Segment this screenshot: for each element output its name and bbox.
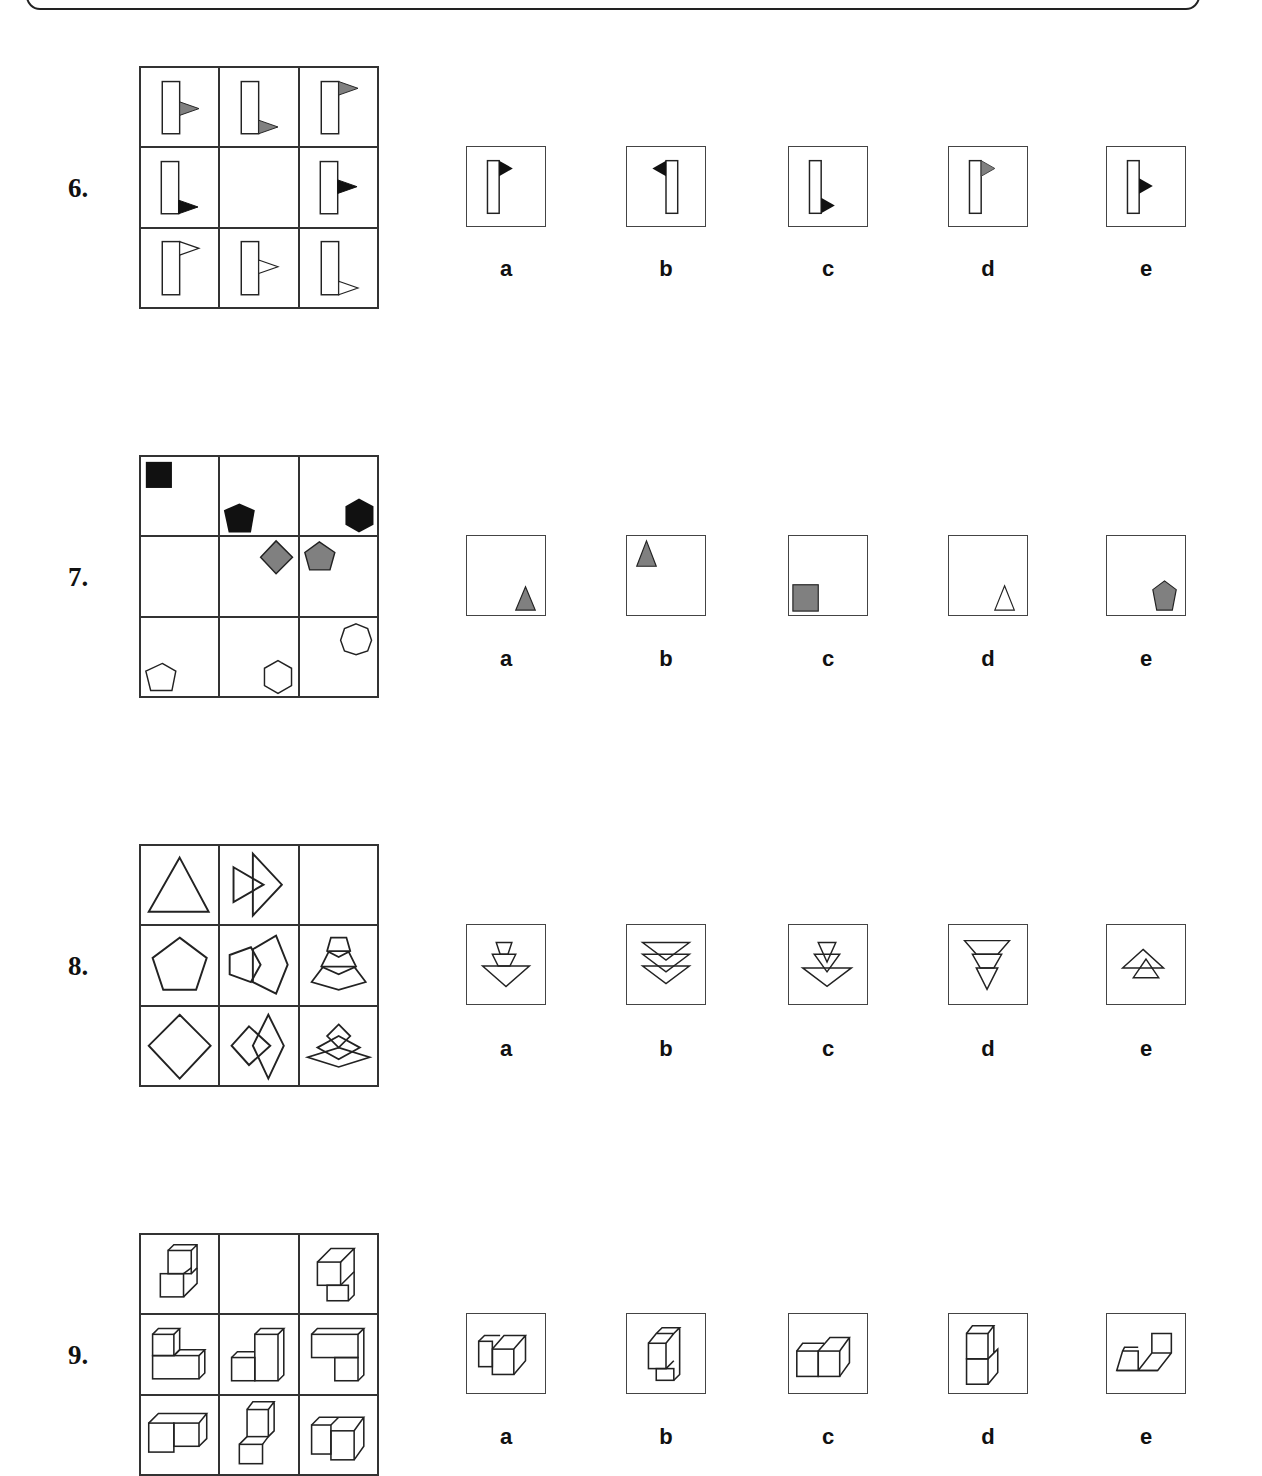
grid-cell-missing bbox=[219, 147, 298, 227]
grid-cell bbox=[140, 845, 219, 925]
grid-cell-missing bbox=[299, 845, 378, 925]
grid-cell bbox=[219, 617, 298, 697]
grid-cell bbox=[219, 1395, 298, 1475]
option-label: b bbox=[626, 1424, 706, 1450]
grid-cell bbox=[299, 228, 378, 308]
option-label: c bbox=[788, 1036, 868, 1062]
option-b[interactable] bbox=[626, 146, 706, 227]
grid-cell bbox=[299, 1234, 378, 1314]
grid-cell bbox=[299, 67, 378, 147]
option-d[interactable] bbox=[948, 146, 1028, 227]
grid-cell bbox=[299, 147, 378, 227]
grid-cell bbox=[299, 925, 378, 1005]
option-label: c bbox=[788, 1424, 868, 1450]
option-c[interactable] bbox=[788, 146, 868, 227]
option-label: e bbox=[1106, 646, 1186, 672]
grid-cell bbox=[140, 925, 219, 1005]
option-b[interactable] bbox=[626, 924, 706, 1005]
option-e[interactable] bbox=[1106, 535, 1186, 616]
option-a[interactable] bbox=[466, 924, 546, 1005]
option-label: a bbox=[466, 646, 546, 672]
header-frame bbox=[26, 0, 1200, 10]
grid-cell bbox=[299, 1395, 378, 1475]
option-c[interactable] bbox=[788, 924, 868, 1005]
option-e[interactable] bbox=[1106, 1313, 1186, 1394]
option-c[interactable] bbox=[788, 535, 868, 616]
grid-cell bbox=[140, 1234, 219, 1314]
puzzle-grid bbox=[139, 455, 379, 698]
option-d[interactable] bbox=[948, 1313, 1028, 1394]
option-a[interactable] bbox=[466, 1313, 546, 1394]
option-label: a bbox=[466, 1424, 546, 1450]
puzzle-grid bbox=[139, 66, 379, 309]
grid-cell bbox=[140, 1395, 219, 1475]
grid-cell bbox=[219, 925, 298, 1005]
puzzle-grid bbox=[139, 844, 379, 1087]
option-e[interactable] bbox=[1106, 146, 1186, 227]
option-label: b bbox=[626, 646, 706, 672]
grid-cell bbox=[140, 617, 219, 697]
grid-cell bbox=[299, 1314, 378, 1394]
question-number: 6. bbox=[68, 173, 88, 204]
option-label: c bbox=[788, 646, 868, 672]
question-number: 9. bbox=[68, 1340, 88, 1371]
grid-cell bbox=[140, 1314, 219, 1394]
option-label: d bbox=[948, 1036, 1028, 1062]
option-label: b bbox=[626, 256, 706, 282]
option-label: d bbox=[948, 256, 1028, 282]
option-label: d bbox=[948, 1424, 1028, 1450]
grid-cell bbox=[140, 228, 219, 308]
grid-cell-missing bbox=[219, 1234, 298, 1314]
option-label: a bbox=[466, 256, 546, 282]
option-label: e bbox=[1106, 256, 1186, 282]
grid-cell bbox=[140, 147, 219, 227]
option-label: e bbox=[1106, 1036, 1186, 1062]
option-label: a bbox=[466, 1036, 546, 1062]
grid-cell bbox=[140, 456, 219, 536]
grid-cell bbox=[219, 228, 298, 308]
grid-cell bbox=[219, 456, 298, 536]
option-a[interactable] bbox=[466, 535, 546, 616]
grid-cell bbox=[140, 67, 219, 147]
puzzle-grid bbox=[139, 1233, 379, 1476]
grid-cell bbox=[219, 536, 298, 616]
option-d[interactable] bbox=[948, 924, 1028, 1005]
option-e[interactable] bbox=[1106, 924, 1186, 1005]
option-label: d bbox=[948, 646, 1028, 672]
option-label: b bbox=[626, 1036, 706, 1062]
grid-cell bbox=[219, 845, 298, 925]
grid-cell bbox=[219, 1006, 298, 1086]
grid-cell bbox=[299, 456, 378, 536]
option-a[interactable] bbox=[466, 146, 546, 227]
option-label: e bbox=[1106, 1424, 1186, 1450]
option-b[interactable] bbox=[626, 535, 706, 616]
option-d[interactable] bbox=[948, 535, 1028, 616]
grid-cell bbox=[140, 1006, 219, 1086]
grid-cell bbox=[299, 536, 378, 616]
question-number: 8. bbox=[68, 951, 88, 982]
grid-cell bbox=[140, 536, 219, 616]
grid-cell bbox=[219, 67, 298, 147]
option-label: c bbox=[788, 256, 868, 282]
option-c[interactable] bbox=[788, 1313, 868, 1394]
grid-cell bbox=[299, 617, 378, 697]
grid-cell bbox=[219, 1314, 298, 1394]
grid-cell bbox=[299, 1006, 378, 1086]
question-number: 7. bbox=[68, 562, 88, 593]
option-b[interactable] bbox=[626, 1313, 706, 1394]
